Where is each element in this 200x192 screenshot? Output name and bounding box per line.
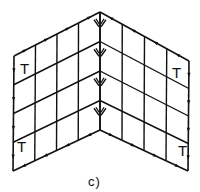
folded-grid-diagram: TTTT [0, 0, 200, 192]
arrowhead-icon [131, 143, 136, 146]
arrowhead-icon [22, 164, 27, 167]
t-label: T [178, 142, 187, 159]
arrowhead-icon [187, 100, 190, 105]
right-panel-grid [100, 12, 190, 171]
arrowhead-icon [12, 126, 15, 131]
arrowhead-icon [109, 133, 114, 136]
arrowhead-icon [12, 155, 15, 160]
arrowhead-icon [153, 153, 158, 156]
grid-line-vertical [57, 34, 58, 151]
t-label: T [20, 60, 29, 77]
t-label: T [172, 64, 181, 81]
arrowhead-icon [12, 97, 15, 102]
arrowhead-icon [65, 143, 70, 146]
grid-line-vertical [144, 37, 145, 151]
t-label: T [17, 138, 26, 155]
figure-caption: c) [88, 174, 101, 189]
arrowhead-icon [87, 133, 92, 136]
arrowhead-icon [175, 164, 180, 167]
arrowhead-icon [43, 153, 48, 156]
arrowhead-icon [187, 128, 190, 133]
arrowhead-icon [187, 73, 190, 78]
arrowhead-icon [12, 68, 15, 73]
